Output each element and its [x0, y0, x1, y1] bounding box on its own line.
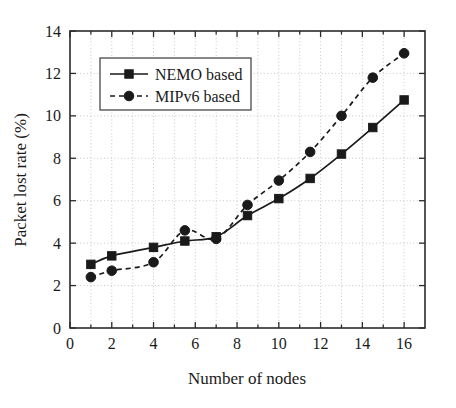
data-point-marker	[306, 174, 314, 182]
x-tick-label: 16	[396, 335, 412, 352]
data-point-marker	[368, 73, 378, 83]
x-tick-label: 4	[150, 335, 158, 352]
y-tick-label: 8	[53, 150, 61, 167]
legend-marker-sample	[125, 70, 133, 78]
y-tick-label: 2	[53, 277, 61, 294]
x-tick-label: 0	[66, 335, 74, 352]
data-point-marker	[337, 111, 347, 121]
data-point-marker	[211, 234, 221, 244]
data-point-marker	[275, 194, 283, 202]
data-point-marker	[87, 260, 95, 268]
data-point-marker	[107, 266, 117, 276]
data-point-marker	[86, 272, 96, 282]
data-point-marker	[400, 96, 408, 104]
x-tick-label: 10	[271, 335, 287, 352]
data-point-marker	[305, 147, 315, 157]
data-point-marker	[243, 200, 253, 210]
y-axis-title: Packet lost rate (%)	[11, 113, 30, 247]
data-point-marker	[149, 243, 157, 251]
data-point-marker	[180, 226, 190, 236]
y-tick-label: 14	[45, 23, 61, 40]
x-tick-label: 12	[313, 335, 329, 352]
y-tick-label: 10	[45, 107, 61, 124]
y-tick-label: 0	[53, 320, 61, 337]
y-tick-label: 6	[53, 192, 61, 209]
chart-legend: NEMO basedMIPv6 based	[100, 58, 251, 110]
x-tick-label: 2	[108, 335, 116, 352]
packet-lost-rate-line-chart: 0246810121416 02468101214 Number of node…	[0, 0, 456, 408]
data-point-marker	[243, 211, 251, 219]
data-point-marker	[337, 150, 345, 158]
data-point-marker	[108, 252, 116, 260]
chart-figure: 0246810121416 02468101214 Number of node…	[0, 0, 456, 408]
y-tick-label: 12	[45, 65, 61, 82]
x-tick-label: 8	[233, 335, 241, 352]
data-point-marker	[369, 123, 377, 131]
data-point-marker	[399, 48, 409, 58]
data-point-marker	[149, 257, 159, 267]
x-tick-label: 6	[191, 335, 199, 352]
data-point-marker	[274, 176, 284, 186]
y-tick-label: 4	[53, 235, 61, 252]
legend-marker-sample	[124, 91, 134, 101]
legend-label: NEMO based	[155, 66, 243, 83]
x-tick-label: 14	[354, 335, 370, 352]
x-axis-title: Number of nodes	[188, 369, 306, 388]
data-point-marker	[181, 237, 189, 245]
legend-label: MIPv6 based	[155, 88, 240, 105]
